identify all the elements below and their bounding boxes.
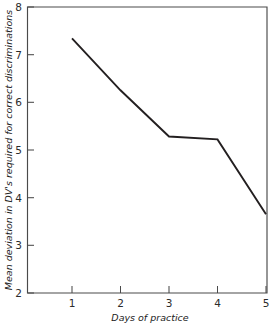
y-tick-label-3: 3 xyxy=(15,239,22,251)
x-tick-label-4: 4 xyxy=(214,297,221,309)
axes-frame-rect xyxy=(28,7,268,293)
y-tick-label-8: 8 xyxy=(15,1,22,13)
y-axis-ticks xyxy=(28,7,35,293)
y-tick-labels: 8 7 6 5 4 3 2 xyxy=(15,1,22,299)
x-tick-label-2: 2 xyxy=(117,297,124,309)
x-axis-ticks xyxy=(72,286,266,293)
x-tick-label-1: 1 xyxy=(69,297,76,309)
y-tick-label-7: 7 xyxy=(15,49,22,61)
plot-frame xyxy=(28,7,268,293)
x-tick-label-3: 3 xyxy=(166,297,173,309)
x-tick-labels: 1 2 3 4 5 xyxy=(69,297,270,309)
x-axis-title: Days of practice xyxy=(111,312,188,323)
y-tick-label-6: 6 xyxy=(15,96,22,108)
line-chart: 8 7 6 5 4 3 2 1 2 3 4 5 Days of practice… xyxy=(0,0,275,325)
data-series-line xyxy=(72,38,266,214)
y-tick-label-5: 5 xyxy=(15,144,22,156)
y-axis-title: Mean deviation in DV's required for corr… xyxy=(3,10,14,290)
x-tick-label-5: 5 xyxy=(263,297,270,309)
y-tick-label-2: 2 xyxy=(15,287,22,299)
y-tick-label-4: 4 xyxy=(15,192,22,204)
chart-figure: 8 7 6 5 4 3 2 1 2 3 4 5 Days of practice… xyxy=(0,0,275,325)
